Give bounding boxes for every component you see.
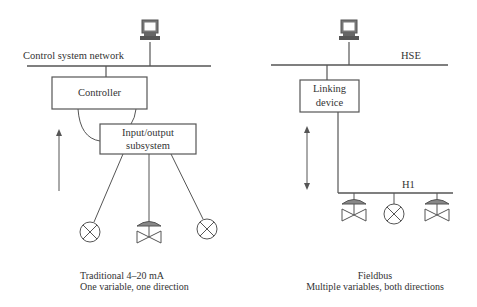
hse-label: HSE xyxy=(401,50,421,61)
transmitter-icon xyxy=(384,204,404,224)
right-caption-line2: Multiple variables, both directions xyxy=(290,281,460,292)
computer-icon xyxy=(339,20,359,40)
up-arrow-icon xyxy=(56,129,62,191)
double-arrow-icon xyxy=(304,126,310,190)
io-label-line2: subsystem xyxy=(100,140,196,152)
valve-icon xyxy=(137,222,161,244)
transmitter-icon xyxy=(197,219,217,239)
computer-icon xyxy=(140,20,160,40)
h1-label: H1 xyxy=(402,179,415,190)
control-network-label: Control system network xyxy=(23,50,124,61)
transmitter-icon xyxy=(80,222,100,242)
diagram-canvas xyxy=(0,0,477,307)
io-label-line1: Input/output xyxy=(100,127,196,139)
left-caption-line2: One variable, one direction xyxy=(80,281,189,292)
left-caption-line1: Traditional 4–20 mA xyxy=(80,270,164,281)
valve-icon xyxy=(425,200,449,222)
valve-icon xyxy=(342,200,366,222)
controller-label: Controller xyxy=(52,87,147,99)
linking-label-line2: device xyxy=(300,97,359,109)
right-diagram xyxy=(271,20,453,224)
right-caption-line1: Fieldbus xyxy=(290,270,460,281)
linking-label-line1: Linking xyxy=(300,83,359,95)
